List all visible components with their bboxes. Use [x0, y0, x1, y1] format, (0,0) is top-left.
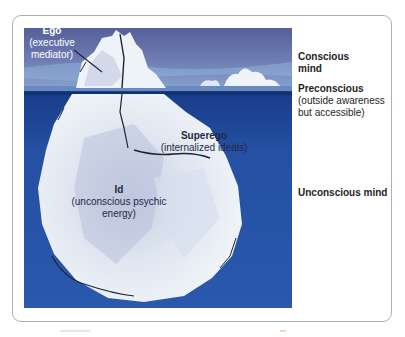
preconscious-line-1: (outside awareness: [298, 95, 385, 107]
ego-label: Ego (executive mediator): [24, 28, 80, 61]
conscious-mind-label: Conscious mind: [298, 51, 349, 75]
preconscious-line-2: but accessible): [298, 107, 385, 119]
id-subtitle-1: (unconscious psychic: [64, 196, 174, 208]
superego-subtitle: (internalized ideals): [144, 142, 264, 154]
page-bleed-mark-2: [280, 330, 286, 332]
preconscious-title: Preconscious: [298, 83, 385, 95]
ego-title: Ego: [24, 28, 80, 37]
conscious-line-1: Conscious: [298, 51, 349, 63]
ego-subtitle-2: mediator): [24, 49, 80, 61]
ego-subtitle-1: (executive: [24, 37, 80, 49]
unconscious-title: Unconscious mind: [298, 187, 387, 199]
superego-label: Superego (internalized ideals): [144, 130, 264, 154]
id-label: Id (unconscious psychic energy): [64, 184, 174, 220]
preconscious-label: Preconscious (outside awareness but acce…: [298, 83, 385, 119]
id-title: Id: [64, 184, 174, 196]
iceberg-illustration: Ego (executive mediator) Superego (inter…: [24, 28, 292, 308]
conscious-line-2: mind: [298, 63, 349, 75]
page-bleed-mark: [60, 330, 90, 332]
id-subtitle-2: energy): [64, 208, 174, 220]
unconscious-mind-label: Unconscious mind: [298, 187, 387, 199]
superego-title: Superego: [144, 130, 264, 142]
